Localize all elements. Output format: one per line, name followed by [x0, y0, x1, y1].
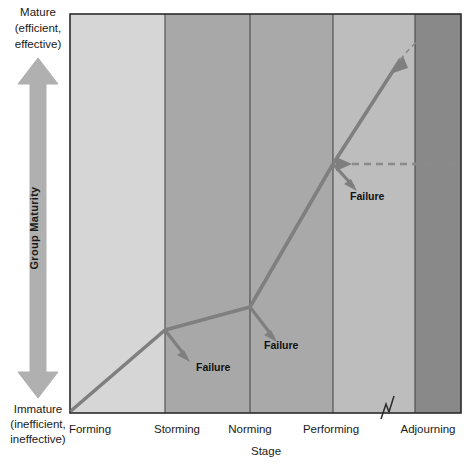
band-performing: [333, 14, 415, 413]
y-axis-title: Group Maturity: [28, 186, 40, 270]
band-norming: [250, 14, 333, 413]
mature-label: Mature (efficient, effective): [15, 6, 62, 50]
mature-label-line2: (efficient,: [15, 22, 61, 34]
band-storming: [165, 14, 250, 413]
group-maturity-chart: Group Maturity Mature (efficient, effect…: [0, 0, 469, 465]
plot-bands: [70, 14, 461, 413]
mature-label-line3: effective): [15, 38, 62, 50]
failure-label-1: Failure: [196, 361, 231, 373]
failure-label-2: Failure: [264, 339, 299, 351]
mature-label-line1: Mature: [20, 6, 56, 18]
x-axis-title: Stage: [251, 445, 281, 457]
x-tick-norming: Norming: [228, 423, 271, 435]
immature-label-line2: (inefficient,: [10, 418, 65, 430]
immature-label: Immature (inefficient, ineffective): [10, 403, 66, 445]
band-adjourning: [415, 14, 461, 413]
x-tick-storming: Storming: [154, 423, 200, 435]
chart-svg: Group Maturity Mature (efficient, effect…: [0, 0, 469, 465]
immature-label-line1: Immature: [14, 403, 63, 415]
x-tick-forming: Forming: [69, 423, 111, 435]
x-tick-adjourning: Adjourning: [401, 423, 456, 435]
failure-label-3: Failure: [350, 190, 385, 202]
band-forming: [70, 14, 165, 413]
immature-label-line3: ineffective): [10, 433, 66, 445]
x-tick-performing: Performing: [303, 423, 359, 435]
